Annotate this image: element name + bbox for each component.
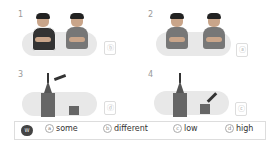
item-number: 4 bbox=[148, 70, 153, 79]
boy-vest-image bbox=[32, 14, 54, 50]
word-bank-icon: W bbox=[21, 125, 33, 136]
boy-shirt-image bbox=[166, 14, 188, 50]
item-number: 2 bbox=[148, 10, 153, 19]
item-number: 1 bbox=[18, 10, 23, 19]
image-panel bbox=[154, 91, 229, 115]
option-a: asome bbox=[45, 124, 78, 133]
answer-box[interactable]: ⓓ bbox=[104, 101, 116, 115]
answer-box[interactable]: ⓐ bbox=[236, 43, 248, 57]
option-d: dhigh bbox=[225, 124, 253, 133]
answer-box[interactable]: ⓑ bbox=[104, 41, 116, 55]
boy-shirt-image bbox=[66, 14, 88, 50]
option-b: bdifferent bbox=[103, 124, 148, 133]
tall-building-image bbox=[172, 73, 188, 117]
answer-box[interactable]: ⓒ bbox=[235, 102, 247, 116]
boy-shirt-image bbox=[203, 14, 225, 50]
item-number: 3 bbox=[18, 70, 23, 79]
small-building-image bbox=[200, 104, 210, 114]
word-bank: W asome bdifferent clow dhigh bbox=[14, 121, 266, 140]
option-c: clow bbox=[173, 124, 198, 133]
image-panel bbox=[22, 92, 97, 116]
small-building-image bbox=[69, 106, 79, 115]
